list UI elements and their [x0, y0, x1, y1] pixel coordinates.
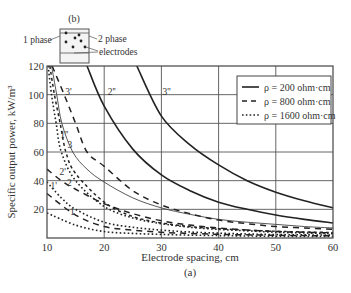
inset-electrodes: electrodes [99, 47, 138, 57]
y-tick-label: 100 [28, 90, 44, 101]
curve-label: 1 [70, 207, 75, 217]
legend-label: ρ = 1600 ohm·cm [264, 110, 336, 121]
x-axis-title: Electrode spacing, cm [141, 251, 239, 263]
legend: ρ = 200 ohm·cmρ = 800 ohm·cmρ = 1600 ohm… [237, 76, 336, 124]
chart: (b) 1 phase 2 phase electrodes 102030405… [0, 0, 351, 293]
x-tick-label: 20 [99, 242, 110, 253]
y-tick-label: 40 [34, 176, 45, 187]
curve-label: 2 [67, 178, 72, 188]
y-tick-label: 80 [34, 118, 45, 129]
x-tick-label: 10 [42, 242, 53, 253]
curve-label: 2' [60, 167, 67, 177]
inset-phase1: 1 phase [23, 35, 52, 45]
curve-label: 3'' [163, 87, 171, 97]
y-tick-label: 60 [34, 147, 45, 158]
y-tick-label: 120 [28, 61, 44, 72]
x-tick-label: 60 [328, 242, 339, 253]
inset-diagram: (b) 1 phase 2 phase electrodes [23, 13, 138, 63]
legend-label: ρ = 200 ohm·cm [264, 82, 331, 93]
curve-label: 1'' [60, 130, 68, 140]
curve-2- [47, 169, 333, 233]
inset-phase2: 2 phase [98, 34, 127, 44]
curve-label: 1' [50, 181, 57, 191]
x-tick-label: 50 [271, 242, 282, 253]
y-axis-title: Specific output power, kW/m³ [5, 85, 17, 219]
figure-caption: (a) [184, 266, 197, 279]
curve-label: 3 [68, 140, 73, 150]
curve-label: 3' [65, 87, 72, 97]
inset-label: (b) [68, 13, 80, 25]
y-tick-label: 20 [34, 204, 45, 215]
curve-label: 2'' [108, 87, 116, 97]
legend-label: ρ = 800 ohm·cm [264, 96, 331, 107]
figure: (b) 1 phase 2 phase electrodes 102030405… [0, 0, 351, 293]
